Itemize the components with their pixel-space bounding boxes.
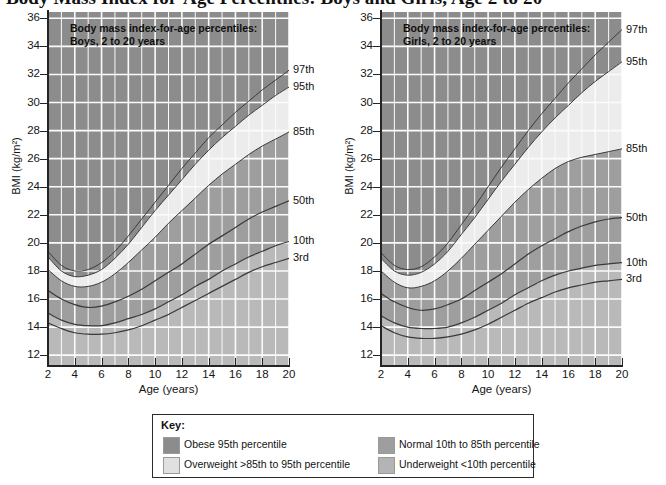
y-tick-mark: [373, 215, 381, 216]
x-axis-title-boys: Age (years): [48, 383, 289, 395]
x-tick-label: 6: [423, 368, 447, 380]
x-tick-label: 12: [170, 368, 194, 380]
y-tick-label: 30: [18, 96, 40, 108]
curve-label-10th: 10th: [626, 256, 647, 268]
x-tick-mark: [568, 358, 569, 366]
x-axis-line-girls: [380, 365, 623, 367]
y-tick-mark: [373, 46, 381, 47]
y-tick-mark: [40, 74, 48, 75]
y-tick-mark: [373, 103, 381, 104]
y-tick-mark: [373, 187, 381, 188]
x-tick-label: 16: [223, 368, 247, 380]
y-tick-label: 30: [351, 96, 373, 108]
x-tick-label: 2: [369, 368, 393, 380]
curve-label-85th: 85th: [293, 125, 314, 137]
x-tick-mark: [235, 358, 236, 366]
x-tick-label: 6: [90, 368, 114, 380]
bmi-percentile-figure: Body Mass Index for-Age Percentiles: Boy…: [0, 0, 666, 485]
x-tick-mark: [381, 358, 382, 366]
y-tick-label: 16: [18, 292, 40, 304]
curve-label-95th: 95th: [626, 55, 647, 67]
y-tick-mark: [40, 299, 48, 300]
y-tick-label: 36: [18, 11, 40, 23]
x-tick-mark: [461, 358, 462, 366]
y-tick-label: 18: [18, 264, 40, 276]
x-tick-label: 8: [116, 368, 140, 380]
x-tick-mark: [155, 358, 156, 366]
y-tick-mark: [373, 18, 381, 19]
curve-label-10th: 10th: [293, 234, 314, 246]
plot-heading-line2: Boys, 2 to 20 years: [70, 35, 270, 48]
x-tick-label: 2: [36, 368, 60, 380]
x-tick-label: 10: [476, 368, 500, 380]
x-tick-mark: [622, 358, 623, 366]
plot-heading-boys: Body mass index-for-age percentiles: Boy…: [70, 22, 270, 47]
chart-panel-girls: 12141618202224262830323436 2468101214161…: [333, 0, 666, 400]
x-tick-mark: [515, 358, 516, 366]
curve-label-50th: 50th: [626, 211, 647, 223]
y-tick-mark: [373, 271, 381, 272]
y-tick-label: 34: [351, 39, 373, 51]
y-axis-line-girls: [380, 10, 382, 367]
plot-area-boys: [48, 12, 289, 365]
x-tick-mark: [488, 358, 489, 366]
y-tick-mark: [373, 131, 381, 132]
y-tick-mark: [40, 103, 48, 104]
x-tick-label: 14: [530, 368, 554, 380]
key-swatch-underweight: [378, 457, 395, 474]
plot-heading-line2: Girls, 2 to 20 years: [403, 35, 603, 48]
y-tick-label: 12: [351, 348, 373, 360]
y-tick-mark: [40, 46, 48, 47]
x-tick-label: 8: [449, 368, 473, 380]
plot-heading-line1: Body mass index-for-age percentiles:: [70, 22, 270, 35]
plot-area-girls: [381, 12, 622, 365]
y-tick-mark: [40, 355, 48, 356]
x-tick-mark: [262, 358, 263, 366]
x-tick-label: 16: [556, 368, 580, 380]
x-tick-mark: [209, 358, 210, 366]
x-tick-mark: [128, 358, 129, 366]
y-tick-label: 16: [351, 292, 373, 304]
y-tick-label: 22: [351, 208, 373, 220]
y-tick-mark: [40, 187, 48, 188]
y-tick-mark: [373, 74, 381, 75]
x-tick-mark: [435, 358, 436, 366]
y-tick-label: 18: [351, 264, 373, 276]
curve-label-50th: 50th: [293, 194, 314, 206]
y-tick-mark: [40, 159, 48, 160]
y-tick-mark: [373, 327, 381, 328]
x-tick-label: 18: [250, 368, 274, 380]
percentile-bands: [48, 12, 289, 365]
y-tick-label: 14: [351, 320, 373, 332]
percentile-bands: [381, 12, 622, 365]
y-tick-label: 32: [18, 67, 40, 79]
key-legend-box: Key: Obese 95th percentile Overweight >8…: [152, 414, 534, 478]
key-swatch-normal: [378, 437, 395, 454]
curve-label-3rd: 3rd: [626, 272, 642, 284]
key-label-normal: Normal 10th to 85th percentile: [399, 438, 540, 450]
y-axis-title-girls: BMI (kg/m²): [343, 126, 355, 206]
x-axis-title-girls: Age (years): [381, 383, 622, 395]
x-tick-label: 4: [396, 368, 420, 380]
y-tick-mark: [40, 243, 48, 244]
curve-label-97th: 97th: [293, 63, 314, 75]
x-tick-mark: [289, 358, 290, 366]
key-swatch-obese: [163, 437, 180, 454]
y-tick-label: 14: [18, 320, 40, 332]
y-tick-mark: [373, 299, 381, 300]
x-tick-mark: [102, 358, 103, 366]
key-swatch-overweight: [163, 457, 180, 474]
key-label-obese: Obese 95th percentile: [184, 438, 287, 450]
key-label-underweight: Underweight <10th percentile: [399, 458, 536, 470]
y-tick-mark: [373, 243, 381, 244]
y-tick-mark: [373, 159, 381, 160]
y-tick-label: 12: [18, 348, 40, 360]
x-tick-mark: [48, 358, 49, 366]
y-tick-label: 32: [351, 67, 373, 79]
curve-label-95th: 95th: [293, 80, 314, 92]
y-tick-mark: [373, 355, 381, 356]
x-tick-mark: [542, 358, 543, 366]
key-title: Key:: [161, 419, 185, 431]
x-tick-mark: [595, 358, 596, 366]
x-tick-label: 14: [197, 368, 221, 380]
